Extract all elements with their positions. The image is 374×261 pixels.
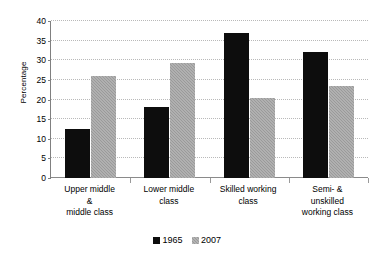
bar-group xyxy=(289,21,368,178)
bar-1965 xyxy=(65,129,90,178)
y-tick-label: 0 xyxy=(41,174,46,183)
bar-group xyxy=(51,21,130,178)
bar-group xyxy=(130,21,209,178)
bar-group xyxy=(210,21,289,178)
y-tick-label: 40 xyxy=(37,17,46,26)
y-tick-label: 15 xyxy=(37,115,46,124)
bar-2007 xyxy=(91,76,116,178)
y-axis-title: Percentage xyxy=(19,13,28,153)
legend-label: 1965 xyxy=(162,236,182,245)
bar-1965 xyxy=(144,107,169,178)
category-separator-tick xyxy=(368,178,369,183)
x-axis-label: Skilled workingclass xyxy=(209,184,288,219)
x-axis-label: Upper middle&middle class xyxy=(50,184,129,219)
x-axis-label: Semi- &unskilledworking class xyxy=(288,184,367,219)
x-axis-label: Lower middleclass xyxy=(129,184,208,219)
y-tick-label: 5 xyxy=(41,154,46,163)
y-tick-label: 25 xyxy=(37,76,46,85)
chart-legend: 19652007 xyxy=(0,236,374,245)
y-tick-label: 35 xyxy=(37,36,46,45)
bar-1965 xyxy=(303,52,328,178)
category-separator-tick xyxy=(210,178,211,183)
legend-item-1965: 1965 xyxy=(153,236,183,245)
y-tick-label: 10 xyxy=(37,135,46,144)
gray-square-swatch xyxy=(192,237,199,244)
bar-2007 xyxy=(250,98,275,178)
bar-2007 xyxy=(170,63,195,178)
bar-chart: Percentage 0510152025303540 Upper middle… xyxy=(0,0,374,261)
category-separator-tick xyxy=(130,178,131,183)
y-tick-mark xyxy=(48,178,51,179)
black-square-swatch xyxy=(153,237,160,244)
legend-label: 2007 xyxy=(201,236,221,245)
category-separator-tick xyxy=(289,178,290,183)
bar-1965 xyxy=(224,33,249,178)
bar-groups xyxy=(51,21,368,178)
y-tick-label: 20 xyxy=(37,95,46,104)
legend-item-2007: 2007 xyxy=(192,236,222,245)
x-axis-labels: Upper middle&middle classLower middlecla… xyxy=(50,184,367,219)
y-tick-label: 30 xyxy=(37,56,46,65)
bar-2007 xyxy=(329,86,354,178)
plot-area: 0510152025303540 xyxy=(50,21,368,178)
